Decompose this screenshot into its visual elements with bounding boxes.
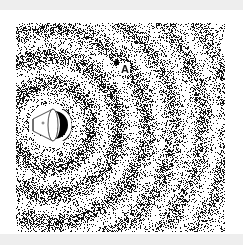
point-a-marker xyxy=(114,60,119,65)
stippled-wavefronts xyxy=(16,23,225,232)
wave-diagram: A xyxy=(16,23,225,232)
bottom-border xyxy=(0,234,243,245)
top-border xyxy=(0,0,243,10)
point-a-label: A xyxy=(121,64,129,75)
